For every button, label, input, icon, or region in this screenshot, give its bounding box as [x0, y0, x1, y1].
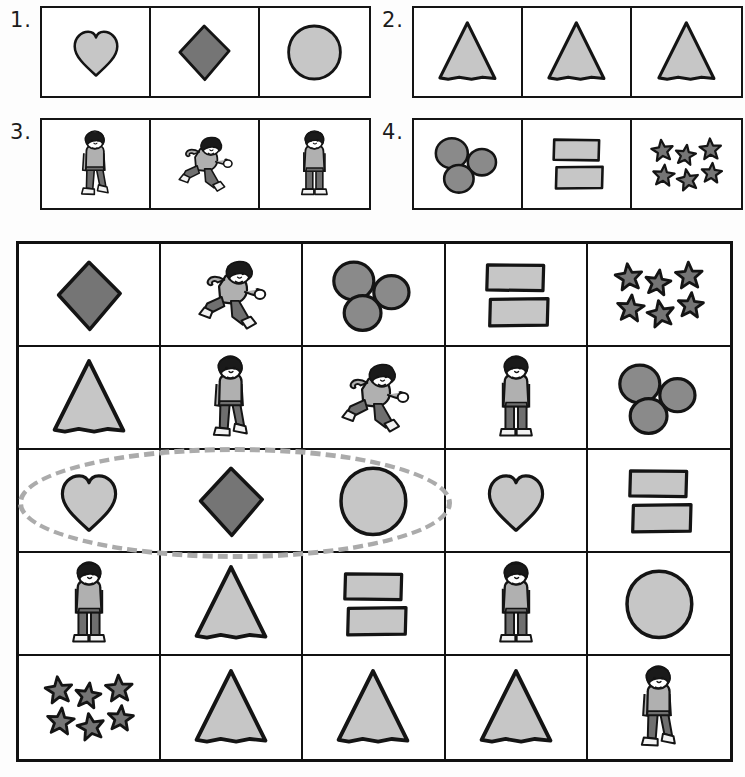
exercise-number-2: 2. — [378, 6, 412, 32]
exercise-group-4: 4. — [378, 118, 743, 210]
exercise-3-boxes — [40, 118, 371, 210]
exercise-1-cell-1[interactable] — [42, 8, 151, 96]
exercise-4-cell-1[interactable] — [414, 120, 523, 208]
star-group — [611, 259, 708, 329]
triangle-shape — [433, 18, 502, 87]
grid-cell-r4c1[interactable] — [19, 553, 161, 656]
boy-walking-figure — [198, 355, 264, 439]
triangle-shape — [473, 665, 559, 751]
boy-standing-figure — [56, 561, 122, 645]
exercise-group-1: 1. — [6, 6, 371, 98]
exercise-4-cell-3[interactable] — [632, 120, 741, 208]
grid-cell-r5c2[interactable] — [161, 656, 303, 759]
grid-cell-r3c4[interactable] — [446, 450, 588, 553]
circle-shape — [620, 565, 698, 643]
grid-cell-r1c1[interactable] — [19, 244, 161, 347]
triangle-shape — [652, 18, 721, 87]
heart-shape — [481, 466, 551, 536]
exercise-2-cell-3[interactable] — [632, 8, 741, 96]
exercise-2-boxes — [412, 6, 743, 98]
circle-group — [329, 257, 417, 333]
boy-standing-figure — [483, 355, 549, 439]
circle-shape — [283, 21, 345, 83]
exercise-number-3: 3. — [6, 118, 40, 144]
grid-cell-r2c4[interactable] — [446, 347, 588, 450]
grid-cell-r4c2[interactable] — [161, 553, 303, 656]
grid-cell-r5c5[interactable] — [588, 656, 730, 759]
sorting-grid — [16, 241, 733, 762]
triangle-shape — [188, 665, 274, 751]
grid-cell-r1c5[interactable] — [588, 244, 730, 347]
grid-cell-r2c5[interactable] — [588, 347, 730, 450]
circle-group — [615, 360, 703, 436]
triangle-shape — [330, 665, 416, 751]
exercise-4-boxes — [412, 118, 743, 210]
exercise-2-cell-1[interactable] — [414, 8, 523, 96]
diamond-shape — [192, 462, 270, 540]
boy-running-figure — [175, 133, 234, 195]
boy-running-figure — [337, 359, 411, 437]
grid-cell-r1c4[interactable] — [446, 244, 588, 347]
rectangle-group — [545, 135, 608, 193]
rectangle-group — [619, 465, 698, 537]
heart-shape — [54, 466, 124, 536]
exercise-3-cell-3[interactable] — [260, 120, 369, 208]
boy-walking-figure — [626, 665, 692, 749]
grid-cell-r4c5[interactable] — [588, 553, 730, 656]
star-group — [41, 672, 138, 742]
grid-cell-r1c3[interactable] — [303, 244, 445, 347]
rectangle-group — [334, 568, 413, 640]
exercise-group-2: 2. — [378, 6, 743, 98]
boy-standing-figure — [483, 561, 549, 645]
grid-cell-r4c4[interactable] — [446, 553, 588, 656]
grid-cell-r5c3[interactable] — [303, 656, 445, 759]
exercise-number-1: 1. — [6, 6, 40, 32]
diamond-shape — [173, 21, 235, 83]
grid-cell-r3c3[interactable] — [303, 450, 445, 553]
triangle-shape — [46, 355, 132, 441]
exercise-4-cell-2[interactable] — [523, 120, 632, 208]
exercise-1-boxes — [40, 6, 371, 98]
circle-group — [432, 134, 502, 195]
grid-cell-r2c3[interactable] — [303, 347, 445, 450]
triangle-shape — [542, 18, 611, 87]
grid-cell-r2c1[interactable] — [19, 347, 161, 450]
circle-shape — [334, 462, 412, 540]
heart-shape — [68, 24, 124, 80]
exercise-3-cell-2[interactable] — [151, 120, 260, 208]
exercise-1-cell-3[interactable] — [260, 8, 369, 96]
exercise-2-cell-2[interactable] — [523, 8, 632, 96]
boy-running-figure — [194, 256, 268, 334]
grid-cell-r3c5[interactable] — [588, 450, 730, 553]
triangle-shape — [188, 561, 274, 647]
grid-cell-r3c2[interactable] — [161, 450, 303, 553]
grid-cell-r5c4[interactable] — [446, 656, 588, 759]
grid-cell-r5c1[interactable] — [19, 656, 161, 759]
grid-cell-r1c2[interactable] — [161, 244, 303, 347]
exercise-group-3: 3. — [6, 118, 371, 210]
boy-walking-figure — [69, 130, 122, 198]
exercise-1-cell-2[interactable] — [151, 8, 260, 96]
exercise-3-cell-1[interactable] — [42, 120, 151, 208]
rectangle-group — [476, 259, 555, 331]
exercise-number-4: 4. — [378, 118, 412, 144]
worksheet-page: 1. 2. 3. 4. — [0, 0, 745, 777]
grid-cell-r4c3[interactable] — [303, 553, 445, 656]
grid-cell-r3c1[interactable] — [19, 450, 161, 553]
boy-standing-figure — [288, 130, 341, 198]
star-group — [648, 136, 725, 192]
diamond-shape — [50, 256, 128, 334]
grid-cell-r2c2[interactable] — [161, 347, 303, 450]
